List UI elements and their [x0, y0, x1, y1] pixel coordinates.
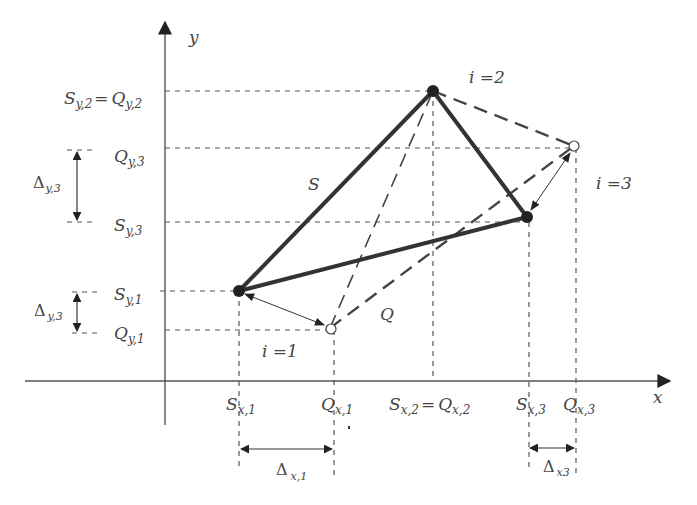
ytick-qy3: Qy,3: [114, 146, 145, 169]
vertex-s1: [233, 285, 245, 297]
vertex-label-i1: i =1: [262, 341, 298, 361]
xtick-sx2-qx2: Sx,2=Qx,2: [389, 394, 470, 417]
q-edge-1-2: [330, 91, 433, 328]
s-edge-1-3: [239, 217, 527, 291]
polygon-q-label: Q: [380, 304, 394, 324]
delta-y3-top-label: Δy,3: [33, 173, 61, 195]
vertical-guides: [239, 91, 576, 480]
ytick-sy2-qy2: Sy,2=Qy,2: [64, 88, 142, 111]
s-edge-1-2: [239, 91, 433, 291]
xtick-qx3: Qx,3: [563, 394, 596, 417]
vertex-label-i2: i =2: [469, 67, 505, 87]
delta-x-arrows: [241, 448, 574, 449]
x-axis-label: x: [653, 387, 663, 407]
horizontal-guides: [67, 91, 574, 333]
vertex-q3: [569, 141, 579, 151]
xtick-sx1: Sx,1: [226, 394, 256, 417]
displacement-arrows: [245, 153, 570, 325]
xtick-sx3: Sx,3: [516, 394, 546, 417]
delta-x3-label: Δx3: [543, 457, 570, 479]
ytick-sy3: Sy,3: [114, 215, 143, 238]
polygon-q: [330, 91, 574, 328]
ytick-qy1: Qy,1: [114, 323, 145, 346]
polygon-s-label: S: [308, 174, 320, 194]
vertex-label-i3: i =3: [596, 173, 632, 193]
xtick-qx1: Qx,1: [321, 394, 353, 417]
diagram-canvas: y x S Q i =1 i =2 i =3 Sy,2=Qy,2 Qy,3 Sy…: [0, 0, 697, 505]
arrow-s3-q3: [531, 153, 570, 210]
vertex-q1: [326, 324, 336, 334]
vertex-s3: [521, 211, 533, 223]
delta-y3-bottom-label: Δy,3: [34, 301, 63, 323]
polygon-s: [239, 91, 527, 291]
arrow-s1-q1: [245, 294, 324, 325]
vertex-s2-q2: [427, 85, 439, 97]
delta-x1-label: Δx,1: [276, 460, 307, 483]
vertices: [233, 85, 579, 334]
stray-mark: [348, 426, 350, 429]
ytick-sy1: Sy,1: [114, 284, 142, 307]
y-axis-label: y: [188, 27, 199, 47]
